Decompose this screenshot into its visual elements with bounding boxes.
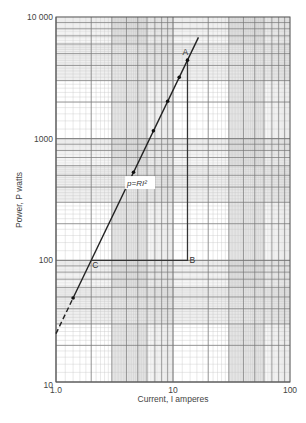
equation-label: p=RI²	[126, 179, 147, 188]
data-point	[71, 296, 75, 300]
y-tick-label: 100	[39, 255, 53, 265]
data-point	[166, 99, 170, 103]
data-point	[177, 76, 181, 80]
x-axis-label: Current, I amperes	[138, 394, 209, 404]
data-point	[132, 170, 136, 174]
grid-lines	[56, 17, 290, 382]
y-tick-label: 10	[44, 380, 54, 390]
y-axis-label: Power, P watts	[14, 172, 24, 228]
label-point-c: C	[92, 260, 98, 270]
y-tick-label: 10 000	[27, 12, 53, 22]
log-log-chart: 1.01010010100100010 000 ABCp=RI² Current…	[0, 0, 306, 423]
x-tick-label: 100	[283, 385, 297, 395]
data-point	[186, 58, 190, 62]
data-point	[152, 129, 156, 133]
label-point-b: B	[189, 255, 195, 265]
label-point-a: A	[182, 47, 188, 57]
y-tick-label: 1000	[34, 134, 53, 144]
